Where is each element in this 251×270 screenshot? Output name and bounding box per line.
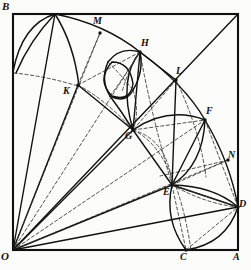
arc-L-down-dash	[176, 80, 206, 177]
chord-L-G	[133, 80, 176, 130]
arc-apex-to-K2	[55, 14, 79, 86]
point-label-m: M	[93, 16, 102, 26]
point-label-g: G	[125, 131, 132, 141]
ray-O-to-D	[13, 207, 238, 250]
arc-H-L-F	[140, 52, 205, 120]
chord-E-F	[172, 120, 205, 185]
chord-F-D	[205, 120, 238, 207]
vertex-dot-f	[203, 118, 206, 121]
vertex-dot-e	[170, 183, 173, 186]
chord-G-E	[133, 130, 172, 185]
chord-G-F	[133, 120, 205, 130]
ray-O-to-K	[13, 85, 78, 250]
vertex-dot-m	[98, 31, 101, 34]
ray-O-to-N	[13, 160, 228, 250]
chord-L-E	[172, 80, 176, 185]
point-label-n: N	[228, 150, 235, 160]
point-label-f: F	[206, 106, 213, 116]
vertex-dot-l	[174, 78, 177, 81]
ray-O-to-M	[13, 33, 100, 250]
point-label-l: L	[176, 66, 182, 76]
point-label-c: C	[180, 252, 187, 262]
point-label-b: B	[2, 1, 9, 12]
point-label-d: D	[239, 199, 246, 209]
chord-K-G	[78, 85, 133, 130]
point-label-a: A	[233, 252, 240, 262]
arc-inner-circ	[104, 62, 133, 98]
point-label-h: H	[141, 38, 149, 48]
vertex-dot-k	[76, 83, 79, 86]
point-label-o: O	[1, 251, 9, 262]
geometric-figure: BMHLKFGNEDOCA	[0, 0, 251, 270]
vertex-dot-h	[138, 50, 141, 53]
vertex-dot-group	[76, 31, 239, 251]
chord-group	[78, 33, 238, 250]
point-label-k: K	[63, 86, 70, 96]
point-label-e: E	[163, 187, 170, 197]
arc-top-apex	[13, 14, 55, 72]
chord-C-D	[186, 207, 238, 250]
ray-O-to-H	[13, 52, 140, 250]
chord-H-L	[140, 52, 176, 80]
